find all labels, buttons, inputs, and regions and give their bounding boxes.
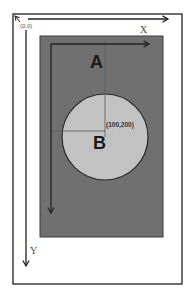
coordinate-diagram: (0,0) X Y A B (100,200) [0,0,193,299]
origin-label: (0,0) [20,23,32,29]
view-a-label: A [90,52,103,72]
y-axis-label: Y [30,245,37,256]
circle-center-label: (100,200) [106,121,134,129]
circle-b-label: B [93,133,106,153]
x-axis-label: X [140,24,148,35]
